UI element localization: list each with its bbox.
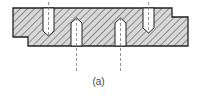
hole-3 [115,18,126,46]
plate-section [13,8,188,46]
figure-caption: (a) [0,76,197,87]
hole-2 [71,18,82,46]
